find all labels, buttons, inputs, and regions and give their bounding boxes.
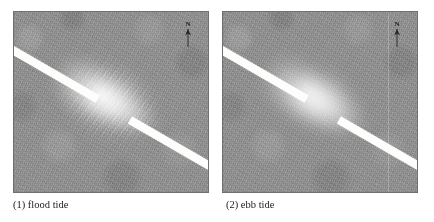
panel-caption-flood-tide: (1) flood tide bbox=[13, 198, 68, 211]
north-arrow-icon: N bbox=[389, 20, 405, 52]
north-arrow-label: N bbox=[180, 20, 196, 28]
figure-panel-flood-tide: N bbox=[13, 11, 209, 193]
sonar-image-ebb-tide: N bbox=[222, 11, 418, 193]
north-arrow-icon: N bbox=[180, 20, 196, 52]
sonar-image-flood-tide: N bbox=[13, 11, 209, 193]
panel-caption-ebb-tide: (2) ebb tide bbox=[226, 198, 274, 211]
figure-panel-ebb-tide: N bbox=[222, 11, 418, 193]
north-arrow-label: N bbox=[389, 20, 405, 28]
figure-container: N (1) flood tide N bbox=[0, 0, 434, 222]
